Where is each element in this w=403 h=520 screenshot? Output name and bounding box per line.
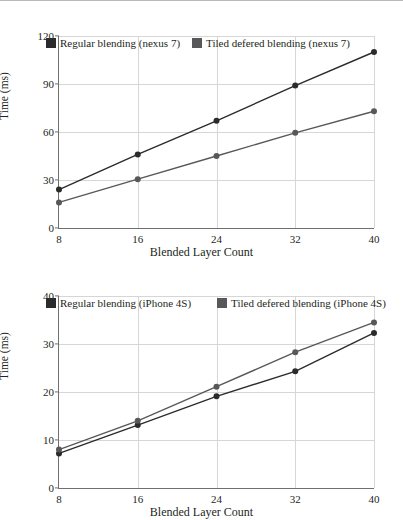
x-tick-label: 16 (132, 228, 143, 245)
data-point-marker (292, 130, 298, 136)
page-top-rule (0, 0, 403, 1)
x-tick-label: 24 (211, 228, 222, 245)
y-tick-label: 60 (43, 126, 59, 138)
y-axis-label-iphone4s: Time (ms) (0, 332, 10, 380)
plot-area-nexus7: 0306090120816243240 (58, 36, 374, 229)
y-tick-label: 20 (43, 386, 59, 398)
data-point-marker (371, 108, 377, 114)
x-tick-label: 24 (211, 488, 222, 505)
legend-item-tiled-iphone4s: Tiled defered blending (iPhone 4S) (217, 297, 386, 309)
data-point-marker (214, 118, 220, 124)
x-tick-label: 8 (56, 488, 62, 505)
x-tick-label: 8 (56, 228, 62, 245)
legend-swatch-tiled-icon (192, 38, 202, 48)
x-axis-label-nexus7: Blended Layer Count (0, 245, 403, 260)
data-point-marker (371, 319, 377, 325)
chart-nexus7: 0306090120816243240 Regular blending (ne… (0, 2, 403, 260)
y-axis-label-nexus7: Time (ms) (0, 72, 10, 120)
data-point-marker (214, 393, 220, 399)
legend-label-regular: Regular blending (iPhone 4S) (60, 297, 191, 309)
data-point-marker (292, 83, 298, 89)
data-point-marker (292, 349, 298, 355)
chart-iphone4s: 010203040816243240 Regular blending (iPh… (0, 262, 403, 520)
y-tick-label: 10 (43, 434, 59, 446)
legend-item-regular-nexus7: Regular blending (nexus 7) (46, 37, 180, 49)
data-point-marker (214, 384, 220, 390)
data-point-marker (371, 330, 377, 336)
plot-area-iphone4s: 010203040816243240 (58, 296, 374, 489)
data-point-marker (56, 199, 62, 205)
legend-swatch-regular-icon (46, 38, 56, 48)
data-point-marker (371, 49, 377, 55)
data-point-marker (56, 187, 62, 193)
x-tick-label: 32 (290, 488, 301, 505)
series-line-0 (59, 333, 374, 453)
data-point-marker (135, 151, 141, 157)
legend-item-tiled-nexus7: Tiled defered blending (nexus 7) (192, 37, 350, 49)
legend-swatch-regular-icon (46, 298, 56, 308)
y-tick-label: 30 (43, 174, 59, 186)
legend-label-tiled: Tiled defered blending (nexus 7) (206, 37, 350, 49)
legend-swatch-tiled-icon (217, 298, 227, 308)
data-point-marker (214, 153, 220, 159)
x-tick-label: 40 (369, 488, 380, 505)
series-layer (59, 296, 374, 488)
legend-label-tiled: Tiled defered blending (iPhone 4S) (231, 297, 386, 309)
x-tick-label: 32 (290, 228, 301, 245)
x-axis-label-iphone4s: Blended Layer Count (0, 505, 403, 520)
data-point-marker (135, 418, 141, 424)
legend-nexus7: Regular blending (nexus 7) Tiled defered… (46, 37, 350, 49)
x-tick-label: 40 (369, 228, 380, 245)
legend-label-regular: Regular blending (nexus 7) (60, 37, 180, 49)
series-layer (59, 36, 374, 228)
y-tick-label: 90 (43, 78, 59, 90)
data-point-marker (135, 176, 141, 182)
legend-iphone4s: Regular blending (iPhone 4S) Tiled defer… (46, 297, 386, 309)
legend-item-regular-iphone4s: Regular blending (iPhone 4S) (46, 297, 191, 309)
gridline-vertical (374, 36, 375, 228)
data-point-marker (292, 368, 298, 374)
data-point-marker (56, 447, 62, 453)
y-tick-label: 30 (43, 338, 59, 350)
x-tick-label: 16 (132, 488, 143, 505)
